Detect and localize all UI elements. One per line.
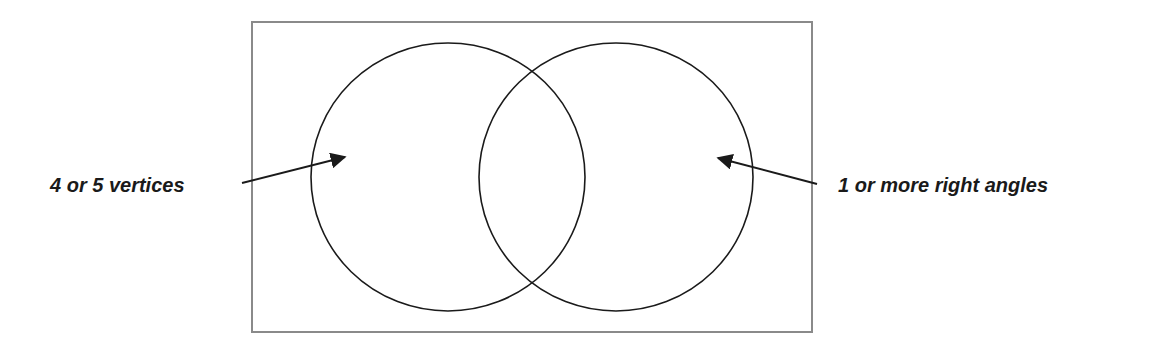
- left-arrow: [242, 157, 345, 183]
- universal-set-frame: [252, 22, 812, 332]
- left-set-label: 4 or 5 vertices: [50, 174, 185, 197]
- right-arrow: [718, 158, 817, 184]
- right-set-label: 1 or more right angles: [838, 174, 1048, 197]
- left-circle: [311, 43, 585, 311]
- right-circle: [479, 43, 753, 311]
